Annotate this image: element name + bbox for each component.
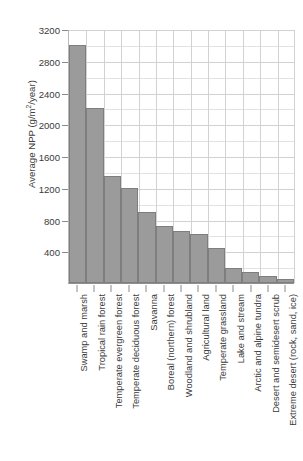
x-axis-tick-label: Savanna xyxy=(150,294,159,331)
y-axis-tick-label: 1200 xyxy=(14,183,60,194)
bar xyxy=(225,268,242,283)
x-axis-tick-mark xyxy=(181,285,182,292)
chart-figure: Average NPP (g/m2/year) 4008001200160020… xyxy=(0,0,303,461)
plot-wrapper: 400800120016002000240028003200 Swamp and… xyxy=(0,0,303,461)
y-axis-tick-label: 400 xyxy=(14,247,60,258)
x-axis-tick-marks xyxy=(68,285,294,292)
x-axis-tick-mark xyxy=(285,285,286,292)
x-axis-tick-mark xyxy=(250,285,251,292)
bar xyxy=(277,279,294,283)
y-axis-tick-label: 2400 xyxy=(14,88,60,99)
x-axis-tick-mark xyxy=(163,285,164,292)
bar xyxy=(104,176,121,283)
gridline-vertical xyxy=(294,30,295,283)
x-axis-tick-label: Extreme desert (rock, sand, ice) xyxy=(289,294,298,426)
plot-area xyxy=(68,30,294,284)
x-axis-tick-mark xyxy=(94,285,95,292)
y-axis-tick-labels: 400800120016002000240028003200 xyxy=(14,0,60,461)
bar xyxy=(138,212,155,283)
x-axis-tick-mark xyxy=(198,285,199,292)
x-axis-tick-mark xyxy=(128,285,129,292)
x-axis-tick-label: Desert and semidesert scrub xyxy=(272,294,281,413)
bar xyxy=(121,188,138,283)
x-axis-tick-mark xyxy=(267,285,268,292)
bar xyxy=(69,45,86,283)
x-axis-tick-label: Swamp and marsh xyxy=(80,294,89,372)
x-axis-tick-label: Temperate grassland xyxy=(219,294,228,381)
bar xyxy=(156,226,173,283)
x-axis-tick-label: Tropical rain forest xyxy=(98,294,107,371)
x-axis-tick-mark xyxy=(76,285,77,292)
bar xyxy=(242,272,259,283)
x-axis-tick-label: Agricultural land xyxy=(202,294,211,361)
x-axis-tick-labels: Swamp and marshTropical rain forestTempe… xyxy=(68,294,294,459)
x-axis-tick-mark xyxy=(233,285,234,292)
y-axis-tick-label: 800 xyxy=(14,215,60,226)
y-axis-tick-label: 1600 xyxy=(14,152,60,163)
bar-series xyxy=(69,30,294,283)
x-axis-tick-label: Boreal (northern) forest xyxy=(167,294,176,390)
x-axis-tick-label: Temperate evergreen forest xyxy=(115,294,124,408)
bar xyxy=(86,108,103,283)
bar xyxy=(259,276,276,283)
bar xyxy=(190,234,207,283)
x-axis-tick-label: Lake and stream xyxy=(237,294,246,363)
x-axis-tick-label: Arctic and alpine tundra xyxy=(254,294,263,392)
x-axis-tick-mark xyxy=(111,285,112,292)
x-axis-tick-mark xyxy=(146,285,147,292)
x-axis-tick-label: Temperate deciduous forest xyxy=(132,294,141,409)
y-axis-tick-label: 2000 xyxy=(14,120,60,131)
bar xyxy=(173,231,190,283)
y-axis-tick-label: 3200 xyxy=(14,25,60,36)
x-axis-tick-label: Woodland and shrubland xyxy=(185,294,194,397)
x-axis-tick-mark xyxy=(215,285,216,292)
y-axis-tick-label: 2800 xyxy=(14,56,60,67)
bar xyxy=(208,248,225,283)
